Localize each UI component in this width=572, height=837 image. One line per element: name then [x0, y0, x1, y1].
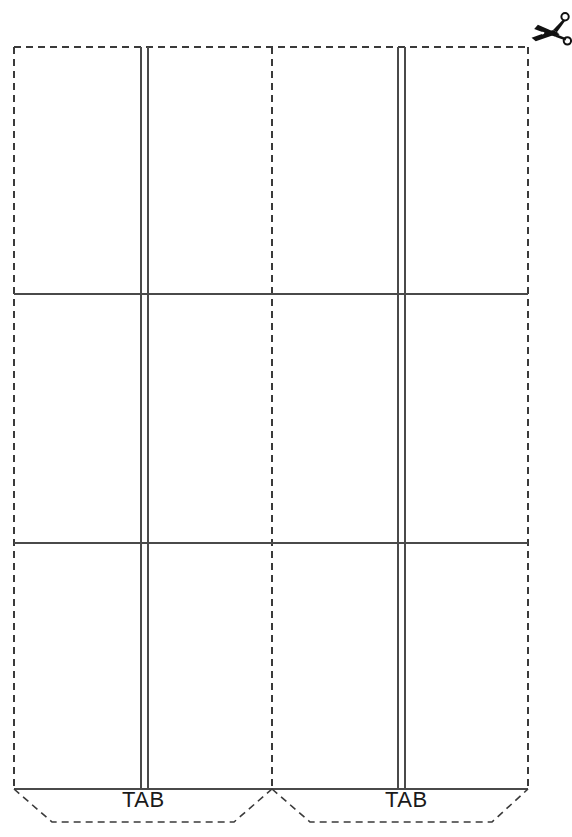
- tab-label-left: TAB: [122, 789, 165, 811]
- scissors-ring-lower: [564, 37, 571, 44]
- scissors-icon: [532, 13, 571, 44]
- vertical-fold-lines: [141, 47, 405, 789]
- papercraft-template-canvas: TAB TAB: [0, 0, 572, 837]
- tab-outlines: [14, 789, 528, 822]
- outer-cut-outline: [14, 47, 528, 789]
- horizontal-fold-lines: [14, 294, 528, 789]
- scissors-ring-upper: [561, 13, 568, 20]
- scissors-tip-upper: [553, 19, 565, 32]
- scissors-pivot: [541, 32, 544, 35]
- template-drawing: [0, 0, 572, 837]
- tab-label-right: TAB: [385, 789, 428, 811]
